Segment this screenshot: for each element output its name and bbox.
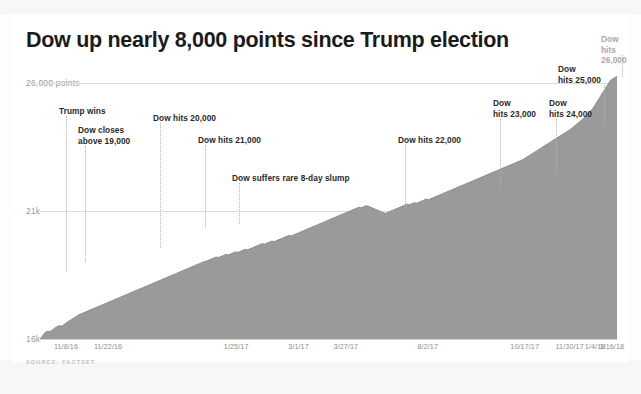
y-axis-tick-21k: 21k (26, 206, 40, 216)
annotation-leader-line (85, 146, 86, 262)
annotation-label: Dow hits 25,000 (558, 64, 601, 85)
x-axis-tick: 11/30/17 (556, 342, 584, 351)
annotation-leader-line (160, 123, 161, 248)
page-ghost-band-bottom (0, 360, 641, 394)
x-axis-tick: 3/1/17 (288, 342, 309, 351)
annotation-leader-line (500, 119, 501, 189)
x-axis-tick: 1/25/17 (224, 342, 249, 351)
x-axis-tick: 3/27/17 (333, 342, 358, 351)
x-axis-tick: 8/2/17 (417, 342, 438, 351)
x-axis-labels: 11/8/1611/22/161/25/173/1/173/27/178/2/1… (12, 342, 629, 354)
annotation-label: Dow hits 20,000 (153, 113, 216, 124)
gridline-16k (40, 339, 617, 340)
annotation-label: Dow hits 23,000 (493, 98, 536, 119)
annotation-label: Dow closes above 19,000 (78, 125, 130, 146)
x-axis-tick: 11/22/16 (94, 342, 122, 351)
page-ghost-band-top (0, 0, 641, 14)
annotation-label: Trump wins (59, 106, 106, 117)
annotation-label: Dow hits 22,000 (398, 135, 461, 146)
annotation-label: Dow suffers rare 8-day slump (232, 173, 350, 184)
annotation-leader-line (604, 85, 605, 126)
annotation-label: Dow hits 21,000 (198, 135, 261, 146)
annotation-leader-line (66, 116, 67, 272)
x-axis-tick: 1/16/18 (599, 342, 624, 351)
annotation-leader-line (405, 145, 406, 210)
annotation-leader-line (556, 119, 557, 172)
annotation-leader-line (239, 183, 240, 224)
x-axis-tick: 10/17/17 (510, 342, 539, 351)
annotation-label: Dow hits 26,000 (601, 34, 629, 66)
annotation-leader-line (205, 145, 206, 227)
chart-card: Dow up nearly 8,000 points since Trump e… (12, 14, 629, 362)
chart-title: Dow up nearly 8,000 points since Trump e… (26, 28, 509, 53)
x-axis-tick: 11/8/16 (54, 342, 78, 351)
annotation-label: Dow hits 24,000 (549, 98, 592, 119)
source-note: SOURCE: FACTSET (26, 359, 95, 365)
screenshot-canvas: Dow up nearly 8,000 points since Trump e… (0, 0, 641, 394)
